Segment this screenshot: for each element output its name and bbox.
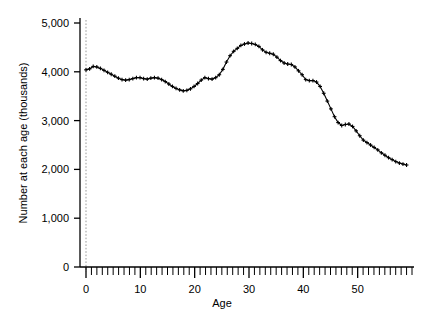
data-point-marker: [135, 76, 139, 80]
y-tick-label: 5,000: [41, 17, 69, 29]
y-tick-label: 3,000: [41, 115, 69, 127]
y-tick-marks: [74, 23, 80, 267]
chart-canvas: 01,0002,0003,0004,0005,000 Number at eac…: [0, 0, 424, 321]
data-point-marker: [397, 161, 401, 165]
y-tick-label: 2,000: [41, 163, 69, 175]
data-point-marker: [124, 78, 128, 82]
data-point-marker: [95, 65, 99, 69]
x-tick-label: 10: [134, 283, 146, 295]
data-point-marker: [343, 123, 347, 127]
y-axis-title: Number at each age (thousands): [17, 63, 29, 224]
x-tick-label: 50: [352, 283, 364, 295]
data-point-marker: [138, 76, 142, 80]
series-markers: [84, 41, 408, 167]
y-tick-label: 1,000: [41, 212, 69, 224]
data-point-marker: [207, 77, 211, 81]
data-point-marker: [322, 91, 326, 95]
x-tick-label: 40: [297, 283, 309, 295]
data-point-marker: [142, 77, 146, 81]
x-tick-labels: 01020304050: [83, 283, 364, 295]
data-point-marker: [120, 78, 124, 82]
data-point-marker: [329, 107, 333, 111]
data-series-group: [84, 41, 408, 167]
x-minor-tick-marks: [86, 267, 412, 278]
data-point-marker: [181, 89, 185, 93]
data-point-marker: [178, 88, 182, 92]
data-point-marker: [401, 162, 405, 166]
y-tick-label: 4,000: [41, 66, 69, 78]
data-point-marker: [325, 99, 329, 103]
data-point-marker: [127, 78, 131, 82]
data-point-marker: [246, 41, 250, 45]
data-point-marker: [185, 88, 189, 92]
x-tick-label: 20: [189, 283, 201, 295]
y-tick-label: 0: [63, 261, 69, 273]
data-point-marker: [149, 76, 153, 80]
data-point-marker: [153, 76, 157, 80]
y-axis-group: 01,0002,0003,0004,0005,000 Number at eac…: [17, 17, 86, 273]
x-axis-group: 01020304050 Age: [80, 267, 414, 309]
data-point-marker: [145, 77, 149, 81]
data-point-marker: [156, 76, 160, 80]
data-point-marker: [286, 62, 290, 66]
data-point-marker: [210, 77, 214, 81]
data-point-marker: [131, 77, 135, 81]
y-tick-labels: 01,0002,0003,0004,0005,000: [41, 17, 69, 273]
x-tick-label: 0: [83, 283, 89, 295]
x-tick-label: 30: [243, 283, 255, 295]
population-by-age-chart: 01,0002,0003,0004,0005,000 Number at eac…: [0, 0, 424, 321]
data-point-marker: [405, 163, 409, 167]
x-axis-title: Age: [212, 297, 232, 309]
data-point-marker: [307, 79, 311, 83]
data-point-marker: [84, 68, 88, 72]
data-point-marker: [250, 42, 254, 46]
series-line: [86, 43, 407, 165]
data-point-marker: [243, 42, 247, 46]
data-point-marker: [311, 79, 315, 83]
data-point-marker: [268, 51, 272, 55]
